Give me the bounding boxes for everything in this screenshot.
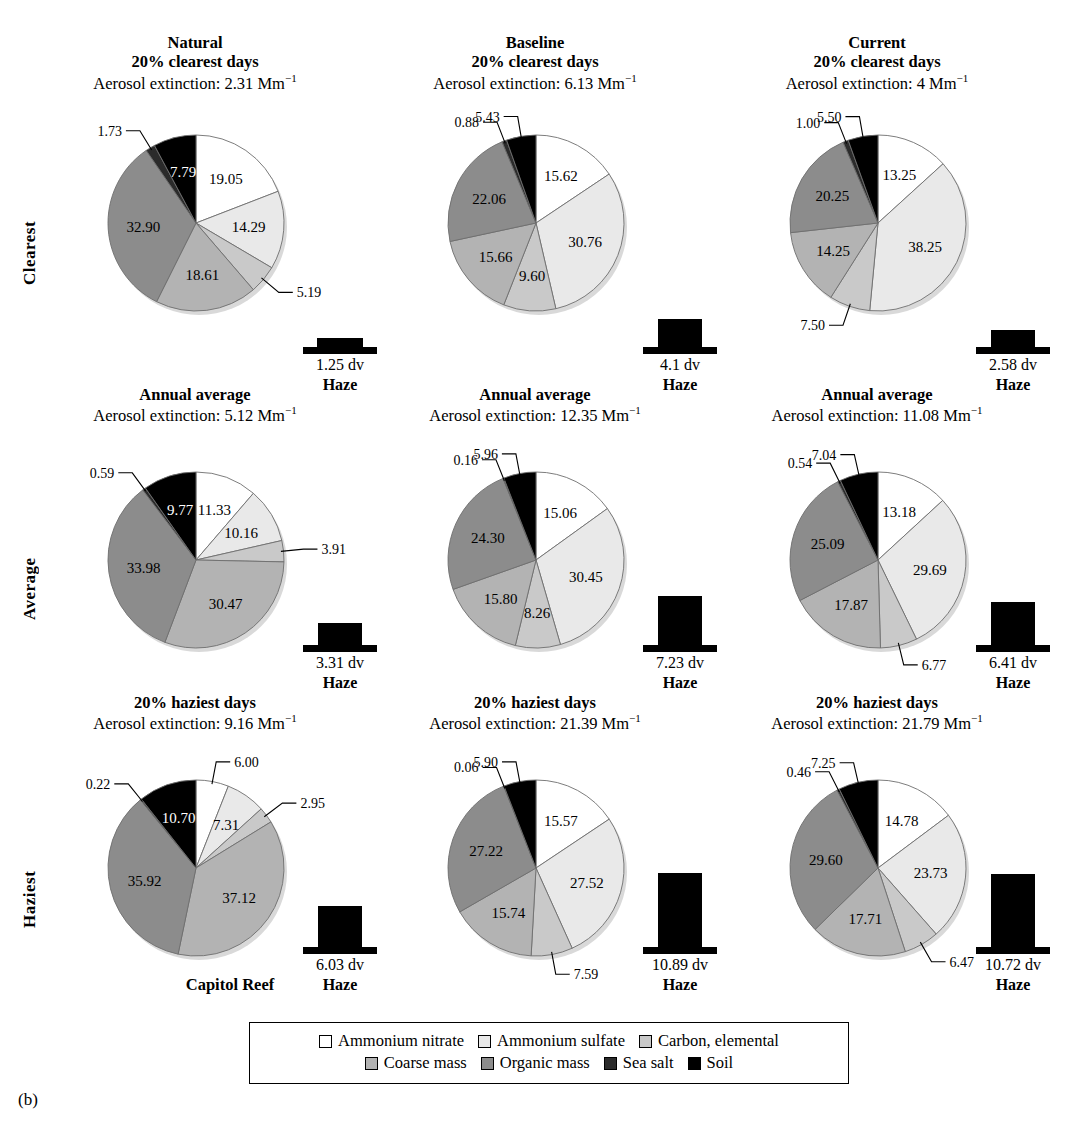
- legend-item-ammonium-sulfate: Ammonium sulfate: [478, 1030, 625, 1052]
- slice-leader-line: [824, 123, 846, 144]
- slice-value-label: 10.16: [224, 525, 258, 541]
- slice-value-label: 15.74: [491, 905, 525, 921]
- slice-value-label: 8.26: [524, 605, 551, 621]
- slice-leader-line: [114, 784, 142, 802]
- slice-value-label: 30.47: [209, 596, 243, 612]
- slice-value-label: 19.05: [209, 171, 243, 187]
- slice-value-label: 14.29: [232, 219, 266, 235]
- slice-value-label: 7.31: [213, 817, 239, 833]
- haze-bar: [991, 330, 1035, 347]
- slice-value-label: 6.00: [234, 755, 259, 770]
- slice-value-label: 24.30: [471, 530, 505, 546]
- legend-item-label: Ammonium nitrate: [338, 1030, 464, 1052]
- haze-label: Haze: [958, 975, 1068, 995]
- slice-value-label: 7.59: [574, 967, 599, 982]
- slice-value-label: 7.50: [801, 318, 826, 333]
- slice-value-label: 7.79: [170, 164, 196, 180]
- haze-bar-chart: [958, 862, 1068, 954]
- slice-value-label: 25.09: [811, 536, 845, 552]
- haze-label: Haze: [958, 673, 1068, 693]
- slice-value-label: 14.78: [885, 813, 919, 829]
- slice-leader-line: [264, 803, 296, 817]
- slice-value-label: 1.73: [97, 124, 122, 139]
- slice-value-label: 5.43: [475, 110, 500, 125]
- slice-leader-line: [840, 455, 859, 477]
- legend-swatch-icon: [478, 1035, 491, 1048]
- slice-leader-line: [281, 549, 318, 551]
- legend-item-label: Carbon, elemental: [658, 1030, 779, 1052]
- legend-swatch-icon: [481, 1057, 494, 1070]
- haze-value-number: 10.72: [985, 956, 1021, 973]
- legend-swatch-icon: [365, 1057, 378, 1070]
- slice-value-label: 7.25: [811, 756, 836, 771]
- slice-leader-line: [502, 454, 520, 476]
- slice-value-label: 15.80: [484, 591, 518, 607]
- slice-leader-line: [126, 131, 152, 150]
- haze-value-number: 6.41: [989, 654, 1017, 671]
- legend-item-ammonium-nitrate: Ammonium nitrate: [319, 1030, 464, 1052]
- haze-bar-chart: [958, 560, 1068, 652]
- slice-value-label: 6.77: [922, 658, 947, 673]
- haze-value: 10.72 dv: [958, 955, 1068, 975]
- slice-value-label: 11.33: [198, 502, 231, 518]
- legend-item-sea-salt: Sea salt: [604, 1052, 674, 1074]
- legend-item-label: Ammonium sulfate: [497, 1030, 625, 1052]
- slice-value-label: 0.46: [787, 765, 812, 780]
- slice-leader-line: [483, 122, 505, 143]
- slice-value-label: 0.22: [86, 777, 111, 792]
- legend-row-2: Coarse massOrganic massSea saltSoil: [262, 1052, 836, 1074]
- slice-value-label: 0.54: [788, 456, 813, 471]
- panel-title-scenario: Current: [712, 33, 1042, 52]
- slice-leader-line: [816, 463, 840, 483]
- slice-value-label: 7.04: [812, 448, 837, 463]
- haze-baseline: [976, 645, 1050, 652]
- slice-value-label: 15.57: [544, 813, 578, 829]
- haze-indicator: 10.72 dvHaze: [958, 862, 1068, 995]
- legend-swatch-icon: [688, 1057, 701, 1070]
- haze-bar: [991, 602, 1035, 645]
- haze-value-number: 4.1: [660, 356, 680, 373]
- slice-leader-line: [212, 762, 230, 784]
- panel-title-scenario: Baseline: [370, 33, 700, 52]
- slice-leader-line: [815, 772, 839, 792]
- legend-item-soil: Soil: [688, 1052, 734, 1074]
- haze-value-number: 2.58: [989, 356, 1017, 373]
- slice-value-label: 17.87: [834, 597, 868, 613]
- slice-value-label: 15.06: [543, 505, 577, 521]
- legend-swatch-icon: [639, 1035, 652, 1048]
- slice-leader-line: [504, 117, 522, 139]
- slice-value-label: 38.25: [908, 239, 942, 255]
- legend-swatch-icon: [604, 1057, 617, 1070]
- slice-leader-line: [845, 117, 863, 139]
- slice-value-label: 5.96: [473, 447, 498, 462]
- slice-leader-line: [502, 762, 520, 784]
- haze-value: 6.41 dv: [958, 653, 1068, 673]
- legend-item-label: Sea salt: [623, 1052, 674, 1074]
- haze-value-unit: dv: [1021, 356, 1037, 373]
- panel-title-scenario: Natural: [30, 33, 360, 52]
- legend-item-label: Soil: [707, 1052, 734, 1074]
- slice-value-label: 13.25: [882, 167, 916, 183]
- slice-value-label: 35.92: [128, 873, 162, 889]
- slice-leader-line: [483, 767, 505, 788]
- legend-row-1: Ammonium nitrateAmmonium sulfateCarbon, …: [262, 1030, 836, 1052]
- slice-value-label: 20.25: [815, 188, 849, 204]
- legend-item-coarse-mass: Coarse mass: [365, 1052, 467, 1074]
- slice-leader-line: [840, 763, 859, 785]
- haze-value-unit: dv: [1021, 654, 1037, 671]
- site-label: Capitol Reef: [120, 975, 340, 995]
- haze-indicator: 2.58 dvHaze: [958, 262, 1068, 395]
- slice-value-label: 27.52: [570, 875, 604, 891]
- slice-value-label: 15.66: [479, 249, 513, 265]
- haze-baseline: [976, 947, 1050, 954]
- slice-value-label: 0.59: [90, 466, 115, 481]
- haze-baseline: [976, 347, 1050, 354]
- slice-value-label: 5.90: [474, 755, 499, 770]
- slice-value-label: 29.69: [913, 562, 947, 578]
- figure-capitol-reef: Clearest Average Haziest Natural20% clea…: [0, 0, 1077, 1139]
- haze-bar: [991, 874, 1035, 947]
- legend-swatch-icon: [319, 1035, 332, 1048]
- slice-value-label: 30.76: [568, 234, 602, 250]
- slice-value-label: 15.62: [544, 168, 578, 184]
- haze-indicator: 6.41 dvHaze: [958, 560, 1068, 693]
